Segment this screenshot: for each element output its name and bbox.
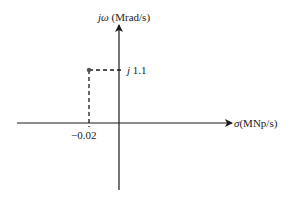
real-tick-label: −0.02 <box>71 130 96 141</box>
vertical-axis-unit: (Mrad/s) <box>112 11 151 23</box>
imag-tick-label: j 1.1 <box>127 65 147 76</box>
horizontal-axis-unit: (MNp/s) <box>239 117 277 129</box>
imag-value: 1.1 <box>133 64 147 76</box>
jomega-symbol: jω <box>98 11 109 23</box>
horizontal-axis-label: σ(MNp/s) <box>234 118 277 129</box>
pole-point <box>87 68 91 72</box>
s-plane-plot <box>0 0 293 200</box>
j-prefix: j <box>127 64 130 76</box>
vertical-axis-label: jω (Mrad/s) <box>98 12 150 23</box>
